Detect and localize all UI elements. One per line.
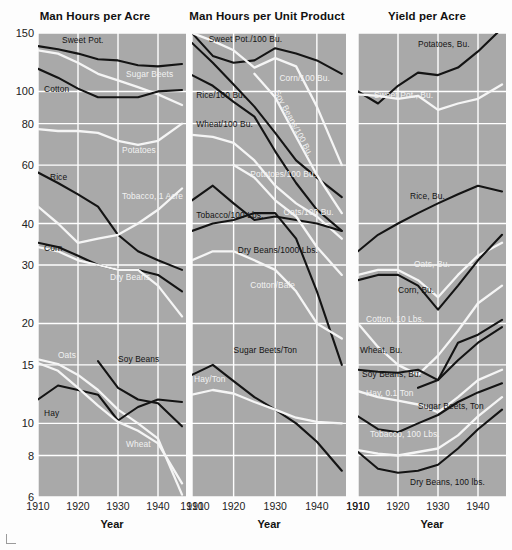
x-axis-label: Year (358, 518, 506, 530)
y-tick-label: 8 (0, 450, 34, 462)
series-label: Cotton, 10 Lbs. (366, 314, 424, 324)
page-corner-mark (6, 534, 16, 544)
series-label: Tobacco/100 Lbs. (196, 210, 263, 220)
series-label: Dry Beans, 100 lbs. (410, 477, 485, 487)
y-tick-label: 20 (0, 317, 34, 329)
x-tick-label: 1930 (106, 500, 129, 512)
series-label: Soy Beans, Bu. (362, 369, 421, 379)
series-label: Dry Beans (110, 272, 150, 282)
panel-title: Yield per Acre (352, 10, 502, 22)
x-tick-label: 1910 (180, 500, 203, 512)
series-label: Dry Beans/1000 Lbs. (238, 245, 318, 255)
series-label: Sweet Pot., Bu. (374, 90, 433, 100)
x-axis-label: Year (192, 518, 346, 530)
y-tick-label: 10 (0, 417, 34, 429)
series-label: Tobacco, 100 Lbs. (370, 429, 440, 439)
y-tick-label: 80 (0, 118, 34, 130)
y-tick-label: 60 (0, 159, 34, 171)
x-tick-label: 1920 (66, 500, 89, 512)
series-label: Potatoes, Bu. (418, 39, 470, 49)
series-label: Hay, 0.1 Ton (366, 388, 413, 398)
series-label: Wheat (126, 439, 151, 449)
x-tick-label: 1940 (305, 500, 328, 512)
panel-title: Man Hours per Acre (0, 10, 190, 22)
series-label: Corn, Bu. (398, 285, 434, 295)
series-label: Sugar Beets/Ton (234, 345, 297, 355)
x-tick-label: 1940 (466, 500, 489, 512)
series-label: Oats, Bu. (414, 259, 450, 269)
series-label: Wheat/100 Bu. (196, 119, 253, 129)
series-label: Rice, Bu. (410, 191, 445, 201)
series-label: Corn (44, 243, 63, 253)
y-tick-label: 15 (0, 359, 34, 371)
series-label: Cotton (44, 84, 69, 94)
x-axis-label: Year (38, 518, 186, 530)
panel-title: Man Hours per Unit Product (186, 10, 348, 22)
plot-area (192, 33, 346, 497)
x-tick-label: 1910 (346, 500, 369, 512)
panel-yield-per-acre: Yield per Acre 1910192019301940 Year Pot… (352, 0, 512, 550)
x-tick-label: 1940 (146, 500, 169, 512)
series-label: Rice (50, 172, 67, 182)
series-label: Potatoes (122, 145, 156, 155)
series-label: Hay (44, 408, 59, 418)
series-label: Oats/100 Bu. (284, 207, 334, 217)
panel-man-hours-per-acre: Man Hours per Acre 150100806040302015108… (0, 0, 190, 550)
series-label: Soy Beans (118, 354, 159, 364)
x-tick-label: 1930 (264, 500, 287, 512)
series-label: Potatoes/100 Bu. (250, 169, 316, 179)
series-label: Hay/Ton (194, 374, 225, 384)
panel-man-hours-per-unit-product: Man Hours per Unit Product 1910192019301… (190, 0, 352, 550)
series-label: Wheat, Bu. (360, 345, 402, 355)
y-tick-label: 150 (0, 27, 34, 39)
y-tick-label: 100 (0, 85, 34, 97)
x-tick-label: 1920 (386, 500, 409, 512)
plot-area (38, 33, 186, 497)
series-label: Sugar Beets, Ton (418, 401, 484, 411)
figure-root: Man Hours per Acre 150100806040302015108… (0, 0, 512, 550)
series-label: Oats (58, 350, 76, 360)
series-label: Corn/100 Bu. (279, 73, 330, 83)
x-tick-label: 1910 (26, 500, 49, 512)
y-tick-label: 40 (0, 218, 34, 230)
y-tick-label: 30 (0, 259, 34, 271)
series-label: Cotton/Bale (250, 280, 295, 290)
x-tick-label: 1920 (222, 500, 245, 512)
series-label: Rice/100 Bu. (196, 90, 245, 100)
series-label: Sugar Beets (126, 69, 173, 79)
series-label: Sweet Pot./100 Bu. (209, 34, 283, 44)
x-tick-label: 1930 (426, 500, 449, 512)
series-label: Sweet Pot. (62, 35, 104, 45)
series-label: Tobacco, 1 Acre (122, 191, 183, 201)
